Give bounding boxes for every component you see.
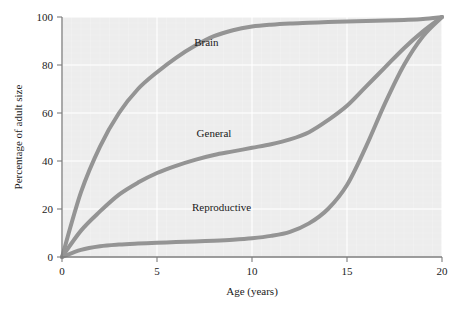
curve-label-reproductive: Reproductive <box>192 201 251 213</box>
y-tick-label: 100 <box>37 11 54 23</box>
y-tick-label: 0 <box>48 251 54 263</box>
y-tick-label: 40 <box>42 155 54 167</box>
x-tick-label: 5 <box>154 265 160 277</box>
x-axis-ticks: 05101520 <box>59 257 448 277</box>
y-tick-label: 20 <box>42 203 54 215</box>
x-tick-label: 20 <box>437 265 449 277</box>
gridlines-group <box>62 17 442 257</box>
y-axis-title: Percentage of adult size <box>12 85 24 190</box>
y-tick-label: 60 <box>42 107 54 119</box>
x-tick-label: 10 <box>247 265 259 277</box>
growth-curves-figure: 05101520 020406080100 Age (years) Percen… <box>0 0 469 312</box>
y-axis-ticks: 020406080100 <box>37 11 63 263</box>
chart-canvas: 05101520 020406080100 Age (years) Percen… <box>0 0 469 312</box>
curve-label-general: General <box>197 127 232 139</box>
curve-label-brain: Brain <box>194 36 219 48</box>
x-tick-label: 0 <box>59 265 65 277</box>
x-axis-title: Age (years) <box>226 285 278 298</box>
y-tick-label: 80 <box>42 59 54 71</box>
x-tick-label: 15 <box>342 265 354 277</box>
